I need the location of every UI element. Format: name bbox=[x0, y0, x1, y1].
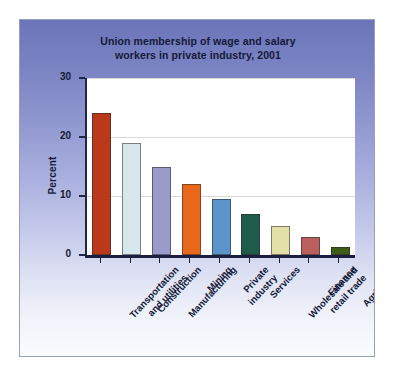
bar-finance bbox=[301, 237, 320, 255]
bar-transportation-and-utilities bbox=[92, 113, 111, 255]
bar-series bbox=[87, 78, 355, 255]
y-axis-title: Percent bbox=[47, 136, 58, 216]
x-tick-mark-4 bbox=[189, 258, 190, 263]
y-tick-label-10: 10 bbox=[45, 189, 71, 200]
bar-construction bbox=[122, 143, 141, 255]
bar-mining bbox=[182, 184, 201, 255]
x-tick-mark-1 bbox=[100, 258, 101, 263]
x-tick-mark-2 bbox=[130, 258, 131, 263]
x-axis-label-line-1: Agriculture bbox=[360, 264, 375, 309]
x-axis-label-agriculture: Agriculture bbox=[360, 264, 375, 309]
y-tick-label-30: 30 bbox=[45, 71, 71, 82]
chart-title-line-1: Union membership of wage and salary bbox=[20, 34, 375, 48]
bar-manufacturing bbox=[152, 167, 171, 256]
bar-private-industry bbox=[212, 199, 231, 255]
x-axis-label-wholesale-and-retail-trade: Wholesale andretail trade bbox=[306, 264, 368, 328]
chart-figure: Union membership of wage and salaryworke… bbox=[19, 19, 375, 357]
x-tick-mark-9 bbox=[338, 258, 339, 263]
x-tick-mark-3 bbox=[159, 258, 160, 263]
plot-area bbox=[85, 78, 355, 258]
x-tick-mark-7 bbox=[279, 258, 280, 263]
bar-services bbox=[241, 214, 260, 255]
y-tick-label-20: 20 bbox=[45, 130, 71, 141]
bar-agriculture bbox=[331, 247, 350, 255]
x-tick-mark-8 bbox=[308, 258, 309, 263]
x-tick-mark-5 bbox=[219, 258, 220, 263]
chart-title-line-2: workers in private industry, 2001 bbox=[20, 48, 375, 62]
y-tick-label-0: 0 bbox=[45, 248, 71, 259]
x-tick-mark-6 bbox=[249, 258, 250, 263]
chart-title: Union membership of wage and salaryworke… bbox=[20, 34, 375, 62]
bar-wholesale-and-retail-trade bbox=[271, 226, 290, 256]
